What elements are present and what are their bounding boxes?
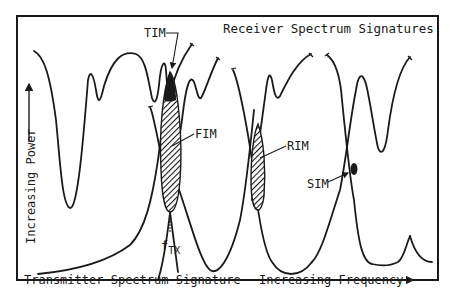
diagram-title: Receiver Spectrum Signatures xyxy=(223,21,434,36)
tim-leader-arrow xyxy=(166,33,178,68)
receiver-curve-8 xyxy=(410,236,432,262)
transmitter-spectrum-label: Transmitter Spectrum Signature xyxy=(24,273,241,287)
spectrum-signature-diagram: Receiver Spectrum Signatures Increasing … xyxy=(0,0,457,303)
receiver-curve-7 xyxy=(312,57,410,262)
receiver-curve-6 xyxy=(327,55,410,265)
y-axis-indicator: Increasing Power xyxy=(24,84,38,244)
receiver-curve-4 xyxy=(233,70,312,274)
sim-label: SIM xyxy=(307,177,329,191)
receiver-curve-1 xyxy=(34,51,170,208)
sim-leader-arrow xyxy=(328,173,348,182)
x-axis-indicator: Increasing Frequency xyxy=(259,273,413,287)
y-axis-label: Increasing Power xyxy=(24,128,38,244)
sim-region xyxy=(351,163,358,175)
plot-frame xyxy=(17,16,438,280)
rim-region xyxy=(251,124,265,210)
tim-label: TIM xyxy=(144,26,166,40)
rim-label: RIM xyxy=(287,139,309,153)
fim-label: FIM xyxy=(195,127,217,141)
